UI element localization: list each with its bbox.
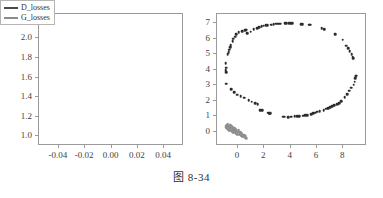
y-tick-label: 1.8 [0, 53, 32, 62]
scatter-point [269, 112, 272, 115]
scatter-point [245, 137, 248, 140]
scatter-point [234, 35, 237, 38]
scatter-point [301, 23, 304, 26]
scatter-point [309, 24, 312, 27]
scatter-point [243, 97, 246, 100]
y-tick-mark [213, 131, 216, 132]
scatter-point [229, 46, 232, 49]
legend: D_losses G_losses [0, 0, 55, 25]
scatter-point [348, 90, 351, 93]
x-tick-mark [237, 145, 238, 148]
scatter-point [353, 83, 356, 86]
scatter-point [333, 104, 336, 107]
legend-label-d-losses: D_losses [21, 4, 50, 12]
scatter-point [251, 100, 254, 103]
figure-caption: 图 8-34 [0, 170, 383, 184]
scatter-point [287, 116, 290, 119]
scatter-point [261, 109, 264, 112]
x-tick-mark [342, 145, 343, 148]
scatter-point [343, 96, 346, 99]
y-tick-label: 2.0 [0, 33, 32, 42]
scatter-point [318, 110, 321, 113]
scatter-point [290, 116, 293, 119]
scatter-point [340, 100, 343, 103]
scatter-point [341, 38, 344, 41]
x-tick-mark [163, 145, 164, 148]
x-tick-mark [111, 145, 112, 148]
scatter-point [334, 33, 337, 36]
y-tick-mark [35, 77, 38, 78]
scatter-point [279, 22, 282, 25]
y-tick-label: 1.0 [0, 131, 32, 140]
scatter-panel: 01234567 02468 [196, 0, 383, 165]
scatter-point [227, 51, 230, 54]
y-tick-label: 1 [196, 111, 210, 120]
scatter-point [246, 32, 249, 35]
x-tick-label: 0.00 [103, 151, 119, 160]
scatter-point [233, 91, 236, 94]
y-tick-label: 1.2 [0, 111, 32, 120]
y-tick-mark [213, 84, 216, 85]
y-tick-mark [35, 37, 38, 38]
scatter-point [298, 115, 301, 118]
scatter-point [350, 86, 353, 89]
x-tick-label: 2 [261, 151, 266, 160]
y-tick-label: 5 [196, 49, 210, 58]
scatter-point [355, 75, 358, 78]
scatter-point [245, 29, 248, 32]
y-tick-label: 0 [196, 127, 210, 136]
legend-swatch-g-losses [4, 17, 18, 19]
scatter-point [231, 40, 234, 43]
y-tick-label: 1.4 [0, 92, 32, 101]
x-tick-mark [290, 145, 291, 148]
scatter-point [249, 31, 252, 34]
x-tick-mark [58, 145, 59, 148]
scatter-point [306, 114, 309, 117]
x-tick-label: 0 [235, 151, 240, 160]
x-tick-label: 0.02 [129, 151, 145, 160]
y-tick-mark [213, 22, 216, 23]
scatter-point [338, 102, 341, 105]
scatter-point [239, 95, 242, 98]
x-tick-label: 8 [340, 151, 345, 160]
scatter-point [283, 116, 286, 119]
scatter-point [266, 24, 269, 27]
scatter-point [354, 77, 357, 80]
scatter-plot-area [216, 13, 366, 145]
scatter-point [224, 62, 227, 65]
y-tick-label: 6 [196, 33, 210, 42]
y-tick-mark [35, 96, 38, 97]
scatter-point [228, 48, 231, 51]
scatter-point [353, 80, 356, 83]
scatter-point [230, 44, 233, 47]
scatter-point [225, 71, 228, 74]
y-tick-mark [213, 38, 216, 39]
y-tick-label: 1.6 [0, 72, 32, 81]
y-tick-label: 4 [196, 64, 210, 73]
scatter-point [256, 103, 259, 106]
x-tick-label: -0.04 [48, 151, 67, 160]
y-tick-mark [35, 57, 38, 58]
scatter-point [253, 28, 256, 31]
figure-container: 1.01.21.41.61.82.02.2 -0.04-0.020.000.02… [0, 0, 383, 198]
legend-label-g-losses: G_losses [21, 14, 50, 22]
x-tick-mark [84, 145, 85, 148]
loss-curve-panel: 1.01.21.41.61.82.02.2 -0.04-0.020.000.02… [0, 0, 196, 165]
scatter-point [230, 88, 233, 91]
x-tick-label: 4 [287, 151, 292, 160]
legend-item-g-losses: G_losses [4, 13, 50, 22]
x-tick-mark [316, 145, 317, 148]
scatter-point [247, 99, 250, 102]
x-tick-label: 0.04 [155, 151, 171, 160]
y-tick-label: 3 [196, 80, 210, 89]
y-tick-mark [35, 135, 38, 136]
y-tick-mark [213, 115, 216, 116]
scatter-point [236, 93, 239, 96]
x-tick-label: -0.02 [75, 151, 94, 160]
scatter-point [226, 53, 229, 56]
x-tick-label: 6 [314, 151, 319, 160]
y-tick-label: 7 [196, 18, 210, 27]
scatter-point [352, 57, 355, 60]
x-tick-mark [263, 145, 264, 148]
scatter-point [225, 83, 228, 86]
